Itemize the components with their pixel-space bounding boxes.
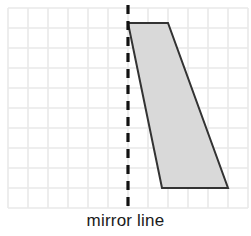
- figure-root: mirror line: [0, 0, 251, 236]
- mirror-line-label: mirror line: [0, 210, 251, 232]
- reflection-diagram: [0, 0, 251, 236]
- figure-background: [0, 0, 251, 236]
